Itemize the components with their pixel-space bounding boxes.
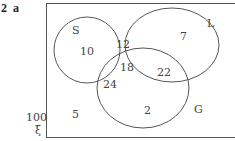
universal-symbol: ξ: [35, 124, 41, 137]
region-l-only: 7: [180, 30, 187, 43]
question-number: 2 a: [1, 1, 19, 16]
set-s-label: S: [72, 24, 80, 37]
region-s-g: 24: [103, 78, 117, 91]
region-s-l-g: 18: [120, 61, 134, 74]
region-s-only: 10: [80, 45, 94, 58]
universal-total: 100: [26, 111, 47, 124]
set-l-ellipse: [125, 8, 219, 82]
region-g-only: 2: [144, 104, 151, 117]
set-l-label: L: [207, 17, 214, 30]
region-l-g: 22: [157, 66, 171, 79]
region-none: 5: [72, 108, 79, 121]
region-s-l: 12: [116, 38, 130, 51]
set-g-label: G: [194, 103, 203, 116]
